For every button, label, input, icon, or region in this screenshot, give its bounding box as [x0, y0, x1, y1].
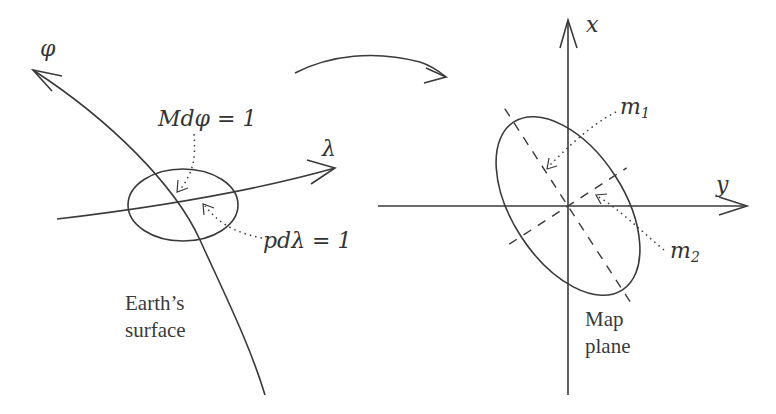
- map-plane-caption: Map plane: [585, 306, 630, 360]
- m1-letter: m: [620, 94, 641, 119]
- mapping-arrowhead-icon: [424, 68, 446, 83]
- earth-caption-line2: surface: [125, 317, 186, 344]
- m2-annotation: m2: [670, 240, 700, 264]
- m1-pointer-dotted: [548, 112, 616, 167]
- phi-axis-label: φ: [40, 38, 55, 60]
- p-dlambda-annotation: pdλ = 1: [263, 230, 352, 252]
- map-caption-line1: Map: [585, 306, 630, 333]
- earth-surface-caption: Earth’s surface: [125, 290, 186, 344]
- lambda-axis-label: λ: [322, 138, 336, 160]
- map-caption-line2: plane: [585, 333, 630, 360]
- earth-caption-line1: Earth’s: [125, 290, 186, 317]
- y-axis-label: y: [716, 174, 728, 196]
- M-dphi-annotation: Mdφ = 1: [158, 108, 256, 130]
- m2-letter: m: [670, 238, 691, 263]
- m1-pointer-arrowhead-icon: [547, 158, 557, 169]
- m1-subscript: 1: [641, 105, 650, 121]
- diagram-canvas: [0, 0, 776, 414]
- x-axis-label: x: [586, 14, 598, 36]
- earth-ellipse: [128, 169, 238, 241]
- m1-annotation: m1: [620, 96, 650, 120]
- lambda-curve: [57, 168, 335, 219]
- p-pointer-arrowhead-icon: [203, 204, 214, 215]
- mapping-arc: [295, 55, 446, 77]
- M-pointer-dotted: [180, 134, 195, 190]
- m2-pointer-arrowhead-icon: [596, 194, 607, 204]
- M-pointer-arrowhead-icon: [177, 180, 188, 192]
- p-pointer-dotted: [205, 206, 262, 238]
- m2-subscript: 2: [691, 249, 700, 265]
